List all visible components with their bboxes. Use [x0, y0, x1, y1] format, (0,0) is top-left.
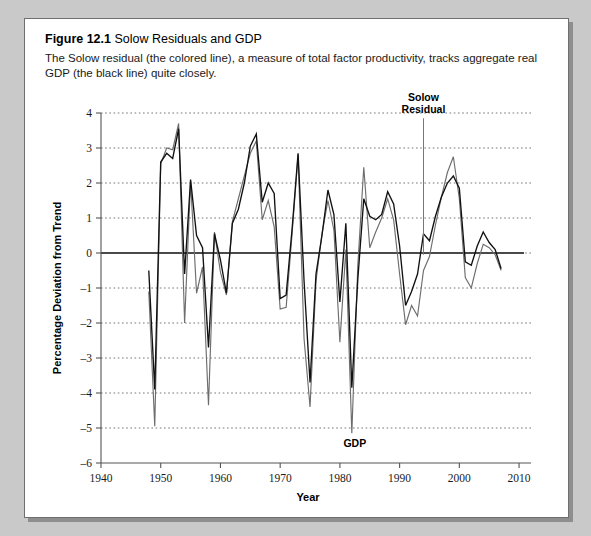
x-tick-label: 1990	[388, 472, 411, 484]
y-tick-label: –6	[80, 457, 93, 469]
x-tick-label: 1950	[149, 472, 172, 484]
y-axis-title: Percentage Deviation from Trend	[51, 202, 63, 374]
chart-area: –6–5–4–3–2–101234 1940195019601970198019…	[25, 19, 570, 519]
y-tick-label: –5	[80, 422, 93, 434]
x-tick-label: 1970	[269, 472, 292, 484]
solow-residual-line	[149, 124, 501, 434]
x-tick-label: 1980	[328, 472, 351, 484]
x-axis-title: Year	[296, 491, 320, 503]
y-tick-label: –2	[80, 317, 93, 329]
figure-page: Figure 12.1 Solow Residuals and GDP The …	[0, 0, 591, 536]
gdp-annotation: GDP	[343, 437, 366, 449]
x-tick-label: 1940	[90, 472, 113, 484]
line-chart: –6–5–4–3–2–101234 1940195019601970198019…	[25, 19, 570, 519]
y-tick-label: 4	[86, 107, 92, 119]
x-tick-label: 2000	[448, 472, 471, 484]
y-tick-label: 2	[86, 177, 92, 189]
x-axis-ticks-group: 19401950196019701980199020002010	[90, 463, 531, 484]
y-tick-label: 3	[86, 142, 92, 154]
solow-residual-annotation-line1: Solow	[408, 91, 440, 103]
solow-residual-annotation-line2: Residual	[402, 103, 446, 115]
x-tick-label: 1960	[209, 472, 232, 484]
y-tick-label: –3	[80, 352, 93, 364]
y-tick-label: –4	[80, 387, 93, 399]
x-tick-label: 2010	[508, 472, 531, 484]
y-tick-label: –1	[80, 282, 93, 294]
y-tick-label: 0	[86, 247, 92, 259]
y-tick-label: 1	[86, 212, 92, 224]
y-axis-ticks-group: –6–5–4–3–2–101234	[80, 107, 102, 469]
gdp-line	[149, 129, 501, 390]
figure-container: Figure 12.1 Solow Residuals and GDP The …	[24, 18, 569, 518]
